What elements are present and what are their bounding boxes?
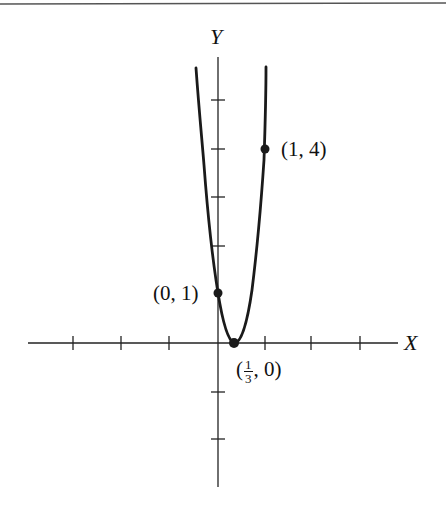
label-point-1-4: (1, 4) <box>281 139 327 160</box>
point-1-4 <box>261 145 270 154</box>
fraction-one-third: 13 <box>244 358 253 385</box>
parabola-figure: Y X (1, 4) (0, 1) (13, 0) <box>0 0 446 507</box>
parabola-curve <box>196 67 266 343</box>
vertex-label-prefix: ( <box>236 357 243 381</box>
x-axis-label: X <box>404 332 417 354</box>
top-rule <box>0 3 446 4</box>
label-point-vertex: (13, 0) <box>236 358 282 385</box>
label-point-0-1: (0, 1) <box>153 283 199 304</box>
vertex-label-suffix: , 0) <box>254 357 282 381</box>
plot-canvas <box>0 0 446 507</box>
fraction-denominator: 3 <box>244 372 253 385</box>
y-axis-label: Y <box>210 26 222 48</box>
fraction-numerator: 1 <box>244 358 253 372</box>
point-0-1 <box>214 289 223 298</box>
point-vertex <box>229 338 239 348</box>
